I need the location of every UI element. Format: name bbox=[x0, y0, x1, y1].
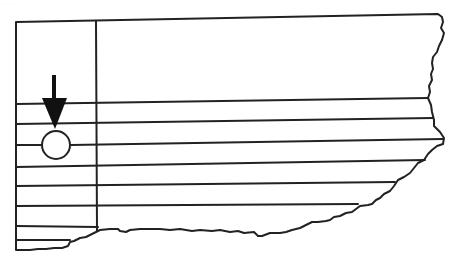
grid-line-4 bbox=[16, 160, 425, 167]
arrow-down-icon bbox=[42, 75, 67, 129]
panel-outline bbox=[16, 14, 444, 250]
column-divider bbox=[96, 21, 97, 231]
grid-line-5 bbox=[16, 182, 395, 186]
grid-line-2 bbox=[16, 118, 433, 124]
grid-line-3-right bbox=[71, 139, 443, 145]
torn-panel-diagram bbox=[0, 0, 461, 272]
grid-line-6 bbox=[16, 204, 358, 206]
circle-marker bbox=[42, 131, 70, 159]
grid-line-7 bbox=[16, 226, 98, 227]
grid-line-1 bbox=[16, 98, 428, 104]
